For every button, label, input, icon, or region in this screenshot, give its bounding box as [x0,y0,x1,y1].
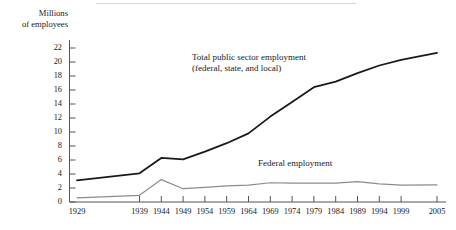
x-axis-tick-label: 1979 [306,208,323,216]
x-axis-tick-label: 1969 [262,208,279,216]
y-axis-tick-label: 4 [30,170,62,178]
x-axis-tick-label: 1944 [153,208,170,216]
total-series-annotation: Total public sector employment (federal,… [192,52,306,74]
y-axis-tick-label: 10 [30,128,62,136]
y-axis-tick-label: 12 [30,114,62,122]
plot-area [0,0,456,230]
y-axis-tick-label: 0 [30,198,62,206]
y-axis-tick-label: 8 [30,142,62,150]
x-axis-tick-label: 2005 [429,208,446,216]
x-axis-tick-label: 1984 [327,208,344,216]
y-axis-tick-label: 6 [30,156,62,164]
y-axis-tick-label: 22 [30,44,62,52]
x-axis-tick-label: 1959 [218,208,235,216]
federal-employment-line [77,180,437,198]
x-axis-tick-label: 1954 [197,208,214,216]
y-axis-tick-label: 2 [30,184,62,192]
y-axis-tick-label: 18 [30,72,62,80]
x-axis-tick-label: 1994 [371,208,388,216]
x-axis-tick-label: 1929 [69,208,86,216]
chart-figure: Millions of employees 024681012141618202… [0,0,456,230]
x-axis-tick-label: 1974 [284,208,301,216]
x-axis-tick-label: 1999 [393,208,410,216]
y-axis-tick-label: 16 [30,86,62,94]
x-axis-tick-label: 1939 [131,208,148,216]
x-axis-tick-label: 1989 [349,208,366,216]
data-series-group [77,53,437,198]
y-axis-tick-label: 14 [30,100,62,108]
x-axis-tick-label: 1964 [240,208,257,216]
federal-series-annotation: Federal employment [258,158,332,169]
y-axis-tick-label: 20 [30,58,62,66]
x-axis-tick-label: 1949 [175,208,192,216]
